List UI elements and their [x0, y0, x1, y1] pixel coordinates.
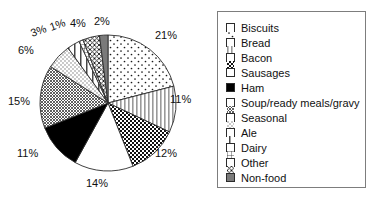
legend-item[interactable]: Ale: [226, 125, 365, 140]
legend-swatch-icon: [226, 128, 235, 137]
pie-chart-plot: 21%11%12%14%11%15%6%3%1%4%2%: [0, 0, 215, 201]
legend-item-label: Sausages: [241, 67, 290, 79]
legend-item[interactable]: Soup/ready meals/gravy: [226, 95, 365, 110]
legend-item-label: Other: [241, 157, 269, 169]
legend-swatch-icon: [226, 38, 235, 47]
legend-item[interactable]: Ham: [226, 80, 365, 95]
pie-slice-percent-label: 21%: [155, 30, 177, 41]
legend-swatch-icon: [226, 98, 235, 107]
legend-swatch-icon: [226, 53, 235, 62]
legend-item-label: Non-food: [241, 172, 286, 184]
pie-slice-percent-label: 11%: [17, 148, 38, 159]
legend-item-label: Ale: [241, 127, 257, 139]
pie-chart-figure: 21%11%12%14%11%15%6%3%1%4%2% BiscuitsBre…: [0, 0, 381, 201]
pie-slice-percent-label: 4%: [70, 18, 86, 29]
legend-item[interactable]: Bread: [226, 35, 365, 50]
chart-legend: BiscuitsBreadBaconSausagesHamSoup/ready …: [217, 11, 366, 188]
legend-item-label: Bacon: [241, 52, 272, 64]
legend-items: BiscuitsBreadBaconSausagesHamSoup/ready …: [226, 20, 365, 185]
legend-item[interactable]: Seasonal: [226, 110, 365, 125]
legend-swatch-icon: [226, 143, 235, 152]
pie-slice-percent-label: 14%: [86, 178, 108, 189]
legend-item-label: Biscuits: [241, 22, 279, 34]
pie-slice-percent-label: 11%: [170, 94, 191, 105]
legend-swatch-icon: [226, 68, 235, 77]
legend-swatch-icon: [226, 23, 235, 32]
legend-item[interactable]: Non-food: [226, 170, 365, 185]
legend-item-label: Seasonal: [241, 112, 287, 124]
legend-item-label: Dairy: [241, 142, 267, 154]
pie-slice-percent-label: 15%: [8, 96, 30, 107]
legend-item[interactable]: Dairy: [226, 140, 365, 155]
legend-swatch-icon: [226, 83, 235, 92]
pie-slice-percent-label: 12%: [155, 148, 177, 159]
legend-item[interactable]: Bacon: [226, 50, 365, 65]
pie-slice-percent-label: 6%: [18, 45, 34, 56]
legend-swatch-icon: [226, 173, 235, 182]
legend-item[interactable]: Other: [226, 155, 365, 170]
legend-item-label: Ham: [241, 82, 264, 94]
legend-item[interactable]: Biscuits: [226, 20, 365, 35]
legend-item[interactable]: Sausages: [226, 65, 365, 80]
legend-swatch-icon: [226, 158, 235, 167]
legend-item-label: Soup/ready meals/gravy: [241, 97, 360, 109]
legend-swatch-icon: [226, 113, 235, 122]
pie-slice-percent-label: 2%: [94, 16, 110, 27]
legend-item-label: Bread: [241, 37, 270, 49]
